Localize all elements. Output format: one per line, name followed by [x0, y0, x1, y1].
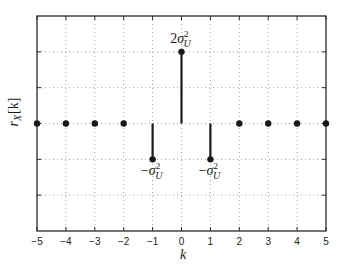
stem-k1	[207, 124, 213, 163]
stem-marker	[178, 49, 184, 55]
annotation-subscript: U	[155, 170, 163, 181]
annotation-label: −σ2U	[141, 161, 163, 181]
annotation-label: −σ2U	[199, 161, 221, 181]
x-tick-label: 4	[294, 236, 300, 247]
stem-marker	[236, 120, 242, 126]
stem-marker	[265, 120, 271, 126]
x-axis-label: k	[180, 247, 187, 262]
x-tick-label: −4	[60, 236, 72, 247]
svg-text:rX[k]: rX[k]	[6, 98, 23, 127]
y-axis-label-argument: [k]	[6, 98, 21, 114]
stem-marker	[92, 120, 98, 126]
stem-plot: −5−4−3−2−1012345 2σ2U−σ2U−σ2U k rX[k]	[0, 0, 347, 270]
stem-k4	[294, 120, 300, 126]
x-tick-label: −3	[89, 236, 101, 247]
x-tick-label: 5	[323, 236, 329, 247]
stem-marker	[323, 120, 329, 126]
stem-marker	[34, 120, 40, 126]
x-tick-label: 0	[179, 236, 185, 247]
stem-k3	[265, 120, 271, 126]
stem-k-1	[149, 124, 155, 163]
y-axis-label-subscript: X	[12, 114, 23, 122]
stem-k-4	[63, 120, 69, 126]
stem-k-2	[121, 120, 127, 126]
annotation-prefix: −	[141, 163, 149, 178]
x-tick-label: 2	[237, 236, 243, 247]
annotation-subscript: U	[184, 38, 192, 49]
stems	[34, 49, 329, 163]
stem-k-3	[92, 120, 98, 126]
x-tick-label: −5	[31, 236, 43, 247]
x-tick-label: 3	[265, 236, 271, 247]
stem-k-5	[34, 120, 40, 126]
annotation-label: 2σ2U	[170, 29, 191, 49]
stem-k5	[323, 120, 329, 126]
stem-k0	[178, 49, 184, 124]
stem-marker	[121, 120, 127, 126]
stem-k2	[236, 120, 242, 126]
stem-marker	[63, 120, 69, 126]
x-tick-labels: −5−4−3−2−1012345	[31, 236, 329, 247]
y-axis-label: rX[k]	[6, 98, 23, 127]
annotation-subscript: U	[213, 170, 221, 181]
annotation-prefix: 2	[170, 31, 177, 46]
x-tick-label: −1	[147, 236, 159, 247]
x-tick-label: 1	[208, 236, 214, 247]
annotation-prefix: −	[199, 163, 207, 178]
x-tick-label: −2	[118, 236, 130, 247]
stem-marker	[294, 120, 300, 126]
